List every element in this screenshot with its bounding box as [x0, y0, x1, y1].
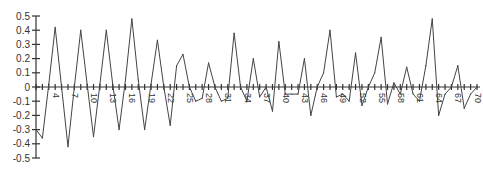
data-point	[406, 67, 407, 68]
data-point	[246, 101, 247, 102]
data-point	[195, 101, 196, 102]
data-point	[55, 27, 56, 28]
y-tick-label: 0.3	[16, 39, 30, 50]
data-point	[240, 86, 241, 87]
x-tick-label: 70	[473, 93, 483, 103]
data-point	[163, 86, 164, 87]
data-point	[432, 18, 433, 19]
y-tick-label: -0.3	[13, 124, 31, 135]
data-point	[349, 101, 350, 102]
series-line-series-1	[36, 19, 477, 147]
data-point	[253, 58, 254, 59]
x-tick-label: 25	[185, 93, 195, 103]
data-point	[412, 94, 413, 95]
data-point	[317, 86, 318, 87]
data-point	[438, 115, 439, 116]
data-point	[112, 84, 113, 85]
data-point	[278, 41, 279, 42]
data-point	[61, 86, 62, 87]
data-point	[227, 98, 228, 99]
data-point	[93, 136, 94, 137]
data-point	[304, 58, 305, 59]
data-point	[131, 18, 132, 19]
data-point	[381, 37, 382, 38]
data-point	[67, 146, 68, 147]
data-point	[285, 94, 286, 95]
data-point	[48, 84, 49, 85]
y-tick-label: 0	[24, 82, 30, 93]
data-point	[310, 115, 311, 116]
data-point	[80, 30, 81, 31]
data-point	[176, 65, 177, 66]
data-point	[125, 79, 126, 80]
series-group	[35, 18, 477, 147]
data-point	[87, 84, 88, 85]
data-point	[182, 54, 183, 55]
x-tick-label: 55	[377, 93, 387, 103]
data-point	[144, 129, 145, 130]
y-tick-label: 0.5	[16, 11, 30, 22]
line-chart: 0.50.40.30.20.10-0.1-0.2-0.3-0.4-0.5 471…	[0, 0, 483, 170]
data-point	[208, 62, 209, 63]
y-tick-label: 0.1	[16, 67, 30, 78]
data-point	[291, 94, 292, 95]
data-point	[342, 94, 343, 95]
data-point	[106, 30, 107, 31]
data-point	[202, 98, 203, 99]
data-point	[374, 72, 375, 73]
data-point	[336, 96, 337, 97]
y-tick-label: -0.5	[13, 153, 31, 164]
x-tick-label: 16	[127, 93, 137, 103]
y-tick-label: 0.2	[16, 53, 30, 64]
data-point	[214, 86, 215, 87]
data-point	[425, 65, 426, 66]
data-point	[297, 94, 298, 95]
data-point	[400, 94, 401, 95]
data-point	[42, 138, 43, 139]
data-point	[393, 82, 394, 83]
data-point	[451, 86, 452, 87]
x-tick-label: 58	[396, 93, 406, 103]
data-point	[118, 129, 119, 130]
data-point	[138, 79, 139, 80]
data-point	[170, 125, 171, 126]
data-point	[221, 101, 222, 102]
data-point	[444, 94, 445, 95]
data-point	[419, 101, 420, 102]
data-point	[157, 40, 158, 41]
x-tick-label: 28	[204, 93, 214, 103]
data-point	[329, 30, 330, 31]
data-point	[35, 129, 36, 130]
data-point	[476, 86, 477, 87]
data-point	[272, 111, 273, 112]
data-point	[323, 72, 324, 73]
data-point	[368, 86, 369, 87]
y-tick-label: -0.4	[13, 138, 31, 149]
y-tick-label: -0.2	[13, 110, 31, 121]
data-point	[259, 96, 260, 97]
x-tick-label: 46	[319, 93, 329, 103]
x-tick-label: 13	[108, 93, 118, 103]
data-point	[150, 84, 151, 85]
data-point	[355, 52, 356, 53]
data-point	[470, 94, 471, 95]
x-tick-label: 4	[51, 93, 61, 98]
y-tick-label: -0.1	[13, 96, 31, 107]
x-tick-label: 22	[166, 93, 176, 103]
data-point	[189, 86, 190, 87]
data-point	[99, 84, 100, 85]
data-point	[265, 86, 266, 87]
data-point	[74, 86, 75, 87]
data-point	[361, 105, 362, 106]
data-point	[234, 32, 235, 33]
x-tick-label: 7	[70, 93, 80, 98]
data-point	[464, 108, 465, 109]
y-tick-label: 0.4	[16, 25, 30, 36]
data-point	[387, 103, 388, 104]
data-point	[457, 65, 458, 66]
